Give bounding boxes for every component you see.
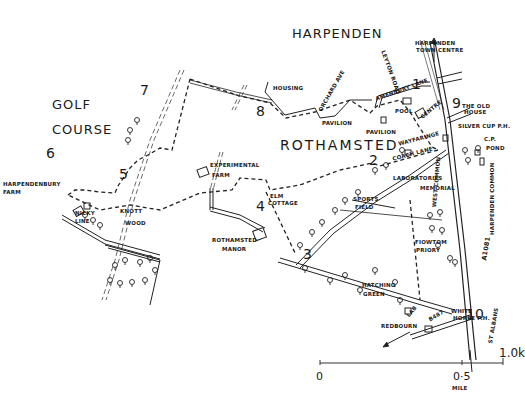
tree-icon [384,163,389,168]
tree-icon [320,220,325,225]
tree-icon [356,190,361,195]
label-harpendenbury: HARPENDENBURY [3,182,61,188]
label-harpenden: HARPENDEN [292,27,382,40]
tree-icon [440,228,445,233]
tree-icon [310,230,315,235]
label-pavilion-2: PAVILION [366,130,396,136]
label-rothamsted: ROTHAMSTED [280,138,399,152]
waypoint-4: 4 [256,199,265,213]
tree-icon [143,278,148,283]
tree-icon [130,280,135,285]
tree-icon [453,260,458,265]
label-golf: GOLF [52,98,91,111]
label-house: HOUSE [464,110,486,116]
tree-icon [135,118,140,123]
waypoint-7: 7 [140,83,149,97]
label-experimental: EXPERIMENTAL [210,163,259,169]
label-harpenden-town-centre: HARPENDEN [415,41,455,47]
waypoint-9: 9 [452,96,461,110]
tree-icon [126,138,131,143]
label-pool: POOL [395,109,413,115]
label-experimental-farm: FARM [212,173,230,179]
label-hatching-green: GREEN [363,292,385,298]
tree-icon [98,223,103,228]
tree-icon [448,256,453,261]
tree-icon [343,198,348,203]
label-nicky: NICKY [75,211,95,217]
tree-icon [373,268,378,273]
waypoint-8: 8 [256,104,265,118]
label-pond: POND [486,146,505,152]
waypoint-5: 5 [119,167,128,181]
waypoint-2: 2 [369,153,378,167]
pool-building [403,98,411,104]
label-harpenden-common: HARPENDEN COMMON [490,163,496,235]
label-redbourn: REDBOURN [381,324,417,330]
label-knott-wood: WOOD [125,221,146,227]
tree-icon [108,278,113,283]
label-sports-field: FIELD [355,205,374,211]
tree-icon [138,260,143,265]
tree-icon [438,210,443,215]
tree-icon [430,226,435,231]
scale-zero: 0 [316,371,323,382]
scale-end: 1.0k [499,347,525,359]
tree-icon [428,213,433,218]
tree-icon [466,158,471,163]
waypoint-6: 6 [46,146,55,160]
label-elm: ELM [270,194,283,200]
label-hatching: HATCHING [362,283,396,289]
tree-icon [463,148,468,153]
tree-icon [91,218,96,223]
label-silver-cup: SILVER CUP P.H. [458,124,510,130]
tree-icon [113,263,118,268]
waypoint-3: 3 [303,247,312,261]
tree-icon [373,168,378,173]
label-rothamsted-manor: ROTHAMSTED [212,238,257,244]
tree-icon [123,258,128,263]
tree-icon [128,128,133,133]
label-white-horse: HORSE P.H. [453,316,490,322]
label-car-park: C.P. [484,137,496,143]
label-nicky-line: LINE [75,219,90,225]
tree-icon [118,281,123,286]
label-elm-cottage: COTTAGE [268,201,298,207]
label-town-centre: TOWN CENTRE [416,48,463,54]
tree-icon [333,208,338,213]
tree-icon [298,243,303,248]
label-course: COURSE [52,123,112,136]
label-knott: KNOTT [120,209,142,215]
label-harpendenbury-farm: FARM [3,190,21,196]
scale-unit: MILE [452,386,468,392]
label-fiowtom: FIOWTOM [415,240,447,246]
label-housing: HOUSING [273,86,303,92]
tree-icon [153,268,158,273]
label-white: WHITE [451,309,472,315]
label-pavilion-1: PAVILION [322,121,352,127]
tree-icon [328,278,333,283]
scale-half-mile: 0·5 [453,371,471,382]
label-sports: SPORTS [353,197,379,203]
label-priory: PRIORY [416,248,440,254]
tree-icon [343,273,348,278]
label-manor: MANOR [222,247,246,253]
